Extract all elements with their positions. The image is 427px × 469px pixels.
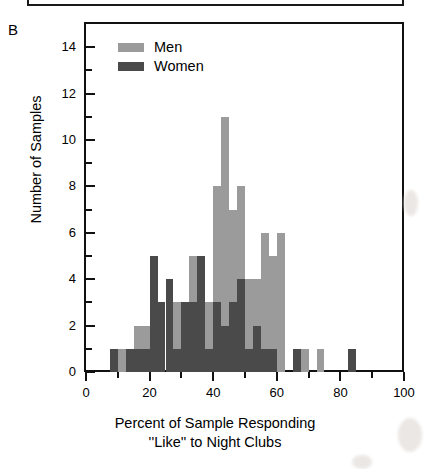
legend-swatch-men: [118, 43, 144, 52]
histogram-bar: [213, 302, 221, 372]
x-tick: [339, 372, 341, 381]
histogram-bar: [261, 349, 269, 372]
x-tick-minor: [371, 372, 373, 378]
histogram-bar: [158, 302, 166, 372]
x-tick-label: 0: [66, 386, 106, 399]
x-tick-minor: [180, 372, 182, 378]
panel-a-frame-fragment: [27, 0, 404, 6]
histogram-bar: [197, 256, 205, 372]
x-tick-minor: [244, 372, 246, 378]
histogram-bar: [277, 233, 285, 372]
x-tick-label: 100: [384, 386, 424, 399]
histogram-bar: [110, 349, 118, 372]
y-tick-label: 8: [50, 179, 76, 192]
y-tick-label: 10: [50, 133, 76, 146]
histogram-bar: [181, 302, 189, 372]
x-axis-title-line1: Percent of Sample Responding: [60, 414, 370, 433]
histogram-bar: [237, 279, 245, 372]
x-axis-title-line2: ''Like'' to Night Clubs: [60, 433, 370, 452]
y-tick-label: 4: [50, 272, 76, 285]
x-tick-minor: [308, 372, 310, 378]
histogram-bar: [317, 349, 325, 372]
histogram-bar: [142, 349, 150, 372]
histogram-bar: [134, 349, 142, 372]
x-tick-label: 20: [130, 386, 170, 399]
y-tick-label: 12: [50, 87, 76, 100]
histogram-bar: [293, 349, 301, 372]
panel-letter: B: [8, 22, 18, 37]
histogram-bar: [205, 349, 213, 372]
scan-smudge: [404, 190, 418, 216]
x-tick: [276, 372, 278, 381]
x-tick: [149, 372, 151, 381]
legend: Men Women: [118, 38, 204, 76]
x-tick: [85, 372, 87, 381]
legend-label-men: Men: [154, 40, 182, 55]
scan-smudge: [352, 455, 372, 469]
histogram-bar: [245, 349, 253, 372]
histogram-bar: [189, 302, 197, 372]
y-tick-label: 0: [50, 365, 76, 378]
x-tick-label: 40: [193, 386, 233, 399]
y-tick-label: 6: [50, 226, 76, 239]
histogram-bar: [166, 279, 174, 372]
x-tick-minor: [117, 372, 119, 378]
legend-swatch-women: [118, 62, 144, 71]
histogram-bar: [150, 256, 158, 372]
plot-area: [86, 24, 404, 372]
legend-entry-women: Women: [118, 57, 204, 76]
legend-entry-men: Men: [118, 38, 204, 57]
histogram-bar: [221, 326, 229, 372]
x-tick: [403, 372, 405, 381]
x-tick-label: 60: [257, 386, 297, 399]
legend-label-women: Women: [154, 59, 204, 74]
x-axis-title: Percent of Sample Responding ''Like'' to…: [60, 414, 370, 452]
histogram-bar: [348, 349, 356, 372]
histogram-bar: [301, 349, 309, 372]
y-axis-title: Number of Samples: [29, 60, 44, 260]
histogram-bar: [126, 349, 134, 372]
histogram-bar: [269, 349, 277, 372]
y-tick-label: 14: [50, 40, 76, 53]
x-tick: [212, 372, 214, 381]
y-tick-label: 2: [50, 319, 76, 332]
x-tick-label: 80: [320, 386, 360, 399]
histogram-bar: [173, 349, 181, 372]
histogram-bar: [253, 326, 261, 372]
histogram-bar: [118, 349, 126, 372]
histogram-bar: [229, 302, 237, 372]
scan-smudge: [398, 418, 422, 452]
